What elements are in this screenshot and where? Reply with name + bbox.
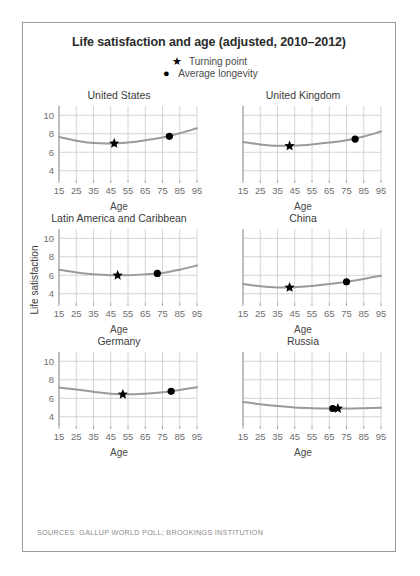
x-tick-label: 75 [157, 431, 168, 442]
x-tick-label: 55 [307, 308, 318, 319]
y-tick-label: 8 [49, 374, 54, 385]
x-axis-label: Age [27, 447, 211, 458]
x-tick-label: 25 [255, 185, 266, 196]
x-tick-label: 75 [341, 431, 352, 442]
y-tick-label: 10 [43, 233, 54, 244]
x-tick-label: 15 [54, 431, 65, 442]
star-icon: ★ [171, 56, 183, 67]
x-tick-label: 85 [358, 431, 369, 442]
x-tick-label: 95 [192, 431, 203, 442]
panel-united-kingdom: United Kingdom152535455565758595Age [211, 89, 395, 212]
x-tick-label: 75 [157, 185, 168, 196]
x-tick-label: 25 [71, 308, 82, 319]
average-longevity-marker [352, 136, 359, 143]
x-tick-label: 35 [88, 308, 99, 319]
x-tick-label: 15 [54, 185, 65, 196]
x-tick-label: 55 [123, 185, 134, 196]
x-tick-label: 35 [272, 185, 283, 196]
turning-point-marker [118, 389, 128, 399]
panel-russia: Russia152535455565758595Age [211, 335, 395, 458]
turning-point-marker [284, 141, 294, 151]
x-tick-label: 15 [238, 431, 249, 442]
x-tick-label: 55 [307, 185, 318, 196]
panel-row: Latin America and Caribbean4681015253545… [27, 212, 395, 335]
x-tick-label: 85 [358, 308, 369, 319]
y-tick-label: 4 [49, 288, 54, 299]
panel-title: Germany [27, 335, 211, 349]
x-tick-label: 85 [174, 431, 185, 442]
plot-area: 152535455565758595 [217, 352, 389, 446]
x-tick-label: 35 [88, 431, 99, 442]
x-tick-label: 25 [71, 185, 82, 196]
plot-svg: 152535455565758595 [217, 106, 389, 200]
x-tick-label: 75 [341, 185, 352, 196]
x-tick-label: 65 [324, 308, 335, 319]
x-tick-label: 95 [192, 308, 203, 319]
x-tick-label: 95 [376, 185, 387, 196]
x-tick-label: 65 [140, 308, 151, 319]
x-tick-label: 45 [289, 185, 300, 196]
panel-title: Russia [211, 335, 395, 349]
plot-area: 152535455565758595 [217, 106, 389, 200]
legend-item-turning-point: ★ Turning point [171, 56, 247, 67]
x-tick-label: 35 [88, 185, 99, 196]
x-tick-label: 65 [324, 431, 335, 442]
panel-united-states: United States46810152535455565758595Age [27, 89, 211, 212]
x-tick-label: 45 [105, 185, 116, 196]
x-tick-label: 15 [238, 185, 249, 196]
y-tick-label: 8 [49, 251, 54, 262]
plot-svg: 46810152535455565758595 [33, 229, 205, 323]
x-tick-label: 45 [105, 308, 116, 319]
plot-svg: 152535455565758595 [217, 229, 389, 323]
panel-title: Latin America and Caribbean [27, 212, 211, 226]
x-tick-label: 85 [174, 308, 185, 319]
x-axis-label: Age [211, 201, 395, 212]
plot-svg: 152535455565758595 [217, 352, 389, 446]
y-tick-label: 6 [49, 270, 54, 281]
turning-point-marker [113, 270, 123, 280]
plot-svg: 46810152535455565758595 [33, 106, 205, 200]
legend-item-average-longevity: ● Average longevity [160, 68, 257, 79]
plot-svg: 46810152535455565758595 [33, 352, 205, 446]
x-axis-label: Age [27, 324, 211, 335]
average-longevity-marker [166, 133, 173, 140]
y-tick-label: 6 [49, 147, 54, 158]
chart-title: Life satisfaction and age (adjusted, 201… [23, 35, 395, 49]
x-axis-label: Age [211, 447, 395, 458]
panel-title: United States [27, 89, 211, 103]
average-longevity-marker [343, 278, 350, 285]
source-note: SOURCES: GALLUP WORLD POLL; BROOKINGS IN… [37, 528, 263, 537]
chart-legend: ★ Turning point ● Average longevity [23, 56, 395, 79]
x-tick-label: 55 [123, 431, 134, 442]
panel-latin-america-and-caribbean: Latin America and Caribbean4681015253545… [27, 212, 211, 335]
y-tick-label: 10 [43, 110, 54, 121]
legend-label-turning-point: Turning point [189, 56, 247, 67]
panel-row: Germany46810152535455565758595AgeRussia1… [27, 335, 395, 458]
x-tick-label: 65 [140, 431, 151, 442]
x-tick-label: 95 [376, 431, 387, 442]
x-tick-label: 45 [105, 431, 116, 442]
x-tick-label: 85 [174, 185, 185, 196]
x-tick-label: 45 [289, 308, 300, 319]
y-tick-label: 4 [49, 165, 54, 176]
x-axis-label: Age [211, 324, 395, 335]
panel-grid: Life satisfaction United States468101525… [23, 89, 395, 458]
x-tick-label: 35 [272, 431, 283, 442]
circle-icon: ● [160, 68, 172, 79]
x-tick-label: 25 [255, 308, 266, 319]
average-longevity-marker [168, 388, 175, 395]
x-tick-label: 75 [341, 308, 352, 319]
x-tick-label: 85 [358, 185, 369, 196]
chart-figure: Life satisfaction and age (adjusted, 201… [22, 22, 396, 552]
x-tick-label: 15 [54, 308, 65, 319]
x-tick-label: 25 [255, 431, 266, 442]
x-tick-label: 55 [307, 431, 318, 442]
y-tick-label: 4 [49, 411, 54, 422]
x-tick-label: 45 [289, 431, 300, 442]
panel-china: China152535455565758595Age [211, 212, 395, 335]
plot-area: 152535455565758595 [217, 229, 389, 323]
plot-area: 46810152535455565758595 [33, 106, 205, 200]
x-tick-label: 65 [140, 185, 151, 196]
x-tick-label: 65 [324, 185, 335, 196]
y-tick-label: 6 [49, 393, 54, 404]
